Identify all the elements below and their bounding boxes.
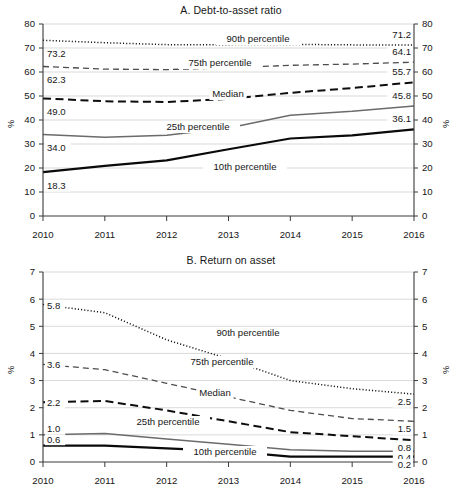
y-axis-tick-label-right: 80 xyxy=(422,18,433,29)
x-axis-tick-label: 2015 xyxy=(341,229,362,240)
series-label-median: Median xyxy=(212,88,243,99)
y-axis-tick-label-left: 0 xyxy=(30,210,35,221)
series-end-value-label: 0.2 xyxy=(398,459,411,470)
x-axis-tick-label: 2013 xyxy=(218,229,239,240)
x-axis-tick-label: 2016 xyxy=(403,229,424,240)
y-axis-tick-label-right: 3 xyxy=(422,375,427,386)
series-label-90th-percentile: 90th percentile xyxy=(217,327,280,338)
series-label-90th-percentile: 90th percentile xyxy=(227,33,290,44)
y-axis-tick-label-right: 4 xyxy=(422,348,428,359)
y-axis-tick-label-left: 2 xyxy=(30,402,35,413)
y-axis-tick-label-right: 70 xyxy=(422,42,433,53)
series-start-value-label: 3.6 xyxy=(47,359,60,370)
series-label-25th-percentile: 25th percentile xyxy=(167,121,230,132)
series-start-value-label: 2.2 xyxy=(47,397,60,408)
y-axis-tick-label-left: 3 xyxy=(30,375,35,386)
series-end-value-label: 55.7 xyxy=(392,66,411,77)
x-axis-tick-label: 2013 xyxy=(218,475,239,486)
y-axis-name-left: % xyxy=(6,366,16,374)
y-axis-tick-label-right: 7 xyxy=(422,266,427,277)
y-axis-tick-label-right: 5 xyxy=(422,321,427,332)
series-start-value-label: 34.0 xyxy=(47,142,66,153)
y-axis-tick-label-left: 80 xyxy=(24,18,35,29)
series-start-value-label: 73.2 xyxy=(47,48,66,59)
y-axis-tick-label-right: 40 xyxy=(422,114,433,125)
y-axis-tick-label-right: 1 xyxy=(422,429,427,440)
x-axis-tick-label: 2012 xyxy=(156,229,177,240)
y-axis-tick-label-right: 30 xyxy=(422,138,433,149)
y-axis-tick-label-left: 7 xyxy=(30,266,35,277)
series-start-value-label: 62.3 xyxy=(47,74,66,85)
y-axis-tick-label-left: 60 xyxy=(24,66,35,77)
series-label-10th-percentile: 10th percentile xyxy=(214,161,277,172)
y-axis-tick-label-left: 1 xyxy=(30,429,35,440)
series-label-25th-percentile: 25th percentile xyxy=(137,416,200,427)
y-axis-tick-label-right: 50 xyxy=(422,90,433,101)
x-axis-tick-label: 2014 xyxy=(280,475,302,486)
panel-b-plot: 0011223344556677201020112012201320142015… xyxy=(0,250,462,498)
x-axis-tick-label: 2011 xyxy=(95,475,116,486)
y-axis-tick-label-right: 0 xyxy=(422,456,427,467)
y-axis-tick-label-left: 70 xyxy=(24,42,35,53)
y-axis-name-right: % xyxy=(441,366,451,374)
x-axis-tick-label: 2014 xyxy=(280,229,302,240)
series-label-10th-percentile: 10th percentile xyxy=(194,446,257,457)
y-axis-tick-label-right: 0 xyxy=(422,210,427,221)
y-axis-tick-label-left: 0 xyxy=(30,456,35,467)
x-axis-tick-label: 2015 xyxy=(341,475,362,486)
series-label-75th-percentile: 75th percentile xyxy=(189,57,252,68)
y-axis-tick-label-left: 20 xyxy=(24,162,35,173)
series-end-value-label: 36.1 xyxy=(392,113,411,124)
figure-container: A. Debt-to-asset ratio 00101020203030404… xyxy=(0,0,462,498)
y-axis-tick-label-left: 40 xyxy=(24,114,35,125)
series-label-75th-percentile: 75th percentile xyxy=(191,356,254,367)
y-axis-name-left: % xyxy=(6,120,16,128)
y-axis-tick-label-left: 6 xyxy=(30,294,35,305)
panel-a-plot: 0010102020303040405050606070708080201020… xyxy=(0,0,462,250)
x-axis-tick-label: 2012 xyxy=(156,475,177,486)
series-end-value-label: 71.2 xyxy=(392,29,411,40)
panel-return-on-asset: B. Return on asset 001122334455667720102… xyxy=(0,250,462,498)
y-axis-tick-label-left: 50 xyxy=(24,90,35,101)
series-start-value-label: 18.3 xyxy=(47,180,66,191)
y-axis-tick-label-right: 6 xyxy=(422,294,427,305)
y-axis-tick-label-left: 5 xyxy=(30,321,35,332)
y-axis-tick-label-right: 2 xyxy=(422,402,427,413)
series-end-value-label: 45.8 xyxy=(392,90,411,101)
x-axis-tick-label: 2011 xyxy=(95,229,116,240)
x-axis-tick-label: 2010 xyxy=(32,475,53,486)
y-axis-tick-label-right: 10 xyxy=(422,186,433,197)
series-end-value-label: 1.5 xyxy=(398,423,411,434)
series-end-value-label: 2.5 xyxy=(398,396,411,407)
series-start-value-label: 5.8 xyxy=(47,300,60,311)
y-axis-tick-label-left: 10 xyxy=(24,186,35,197)
y-axis-tick-label-left: 30 xyxy=(24,138,35,149)
y-axis-tick-label-left: 4 xyxy=(30,348,36,359)
y-axis-tick-label-right: 20 xyxy=(422,162,433,173)
series-start-value-label: 49.0 xyxy=(47,106,66,117)
y-axis-tick-label-right: 60 xyxy=(422,66,433,77)
y-axis-name-right: % xyxy=(441,120,451,128)
x-axis-tick-label: 2016 xyxy=(403,475,424,486)
panel-debt-to-asset-ratio: A. Debt-to-asset ratio 00101020203030404… xyxy=(0,0,462,250)
series-start-value-label: 0.6 xyxy=(47,434,60,445)
series-start-value-label: 1.0 xyxy=(47,423,60,434)
series-label-median: Median xyxy=(199,387,230,398)
series-end-value-label: 64.1 xyxy=(392,46,411,57)
x-axis-tick-label: 2010 xyxy=(32,229,53,240)
